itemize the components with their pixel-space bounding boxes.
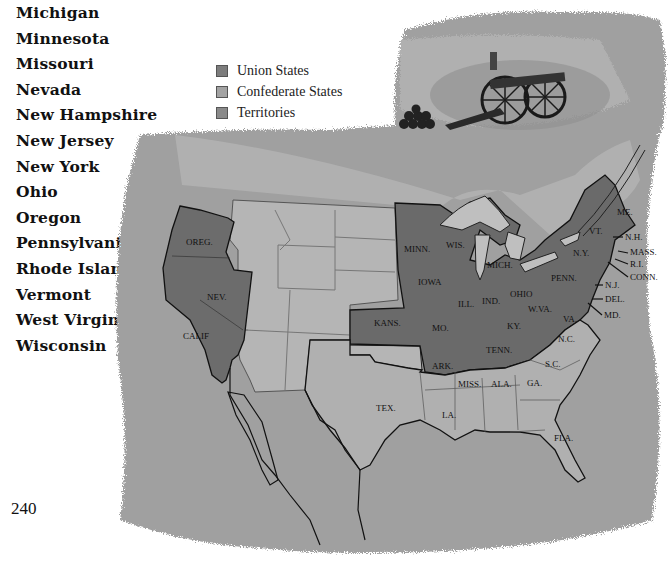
label-ohio: OHIO [510,289,533,299]
label-vt: VT. [589,226,603,236]
label-minn: MINN. [404,244,430,254]
label-calif: CALIF [183,331,209,341]
label-tex: TEX. [376,403,396,413]
label-mass: MASS. [630,247,657,257]
legend-label: Territories [237,105,295,121]
label-penn: PENN. [551,273,577,283]
label-nj: N.J. [605,280,620,290]
label-oreg: OREG. [186,237,213,247]
label-tenn: TENN. [486,345,512,355]
label-ri: R.I. [630,259,644,269]
label-sc: S.C. [545,359,561,369]
label-mo: MO. [432,323,449,333]
label-ill: ILL. [458,299,474,309]
label-md: MD. [604,310,621,320]
label-miss: MISS. [458,379,481,389]
label-del: DEL. [605,294,625,304]
label-ind: IND. [482,296,500,306]
label-nev: NEV. [207,292,227,302]
label-fla: FLA. [554,433,573,443]
map-legend: Union States Confederate States Territor… [216,60,342,123]
label-nc: N.C. [558,334,575,344]
label-ga: GA. [527,378,542,388]
label-wva: W.VA. [528,304,552,314]
label-la: LA. [442,410,456,420]
label-ala: ALA. [491,379,512,389]
label-ky: KY. [507,321,521,331]
confederate-swatch-icon [216,86,228,98]
legend-item-confederate: Confederate States [216,81,342,102]
label-wis: WIS. [446,240,465,250]
legend-label: Confederate States [237,84,342,100]
legend-item-territories: Territories [216,102,342,123]
label-nh: N.H. [625,232,643,242]
label-ny: N.Y. [573,248,589,258]
label-va: VA. [563,314,577,324]
label-kans: KANS. [374,318,401,328]
label-iowa: IOWA [418,277,442,287]
label-conn: CONN. [630,272,658,282]
label-me: ME. [617,207,633,217]
label-mich: MICH. [487,260,513,270]
legend-label: Union States [237,63,309,79]
label-ark: ARK. [432,361,453,371]
legend-item-union: Union States [216,60,342,81]
territories-swatch-icon [216,107,228,119]
union-swatch-icon [216,65,228,77]
